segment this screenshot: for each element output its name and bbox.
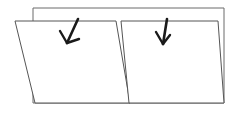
figure-svg: Two overlapping slanted panels with down… [0,0,241,115]
right-slanted-panel-shape [121,21,224,103]
diagram-canvas: Two overlapping slanted panels with down… [0,0,241,115]
